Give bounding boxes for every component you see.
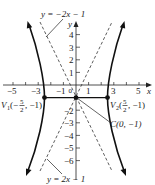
svg-text:5: 5	[20, 98, 24, 106]
svg-text:, −1): , −1)	[25, 100, 42, 110]
leader-line-bottom	[47, 159, 62, 174]
hyperbola-left-branch	[28, 25, 45, 172]
x-tick-label: 5	[136, 86, 141, 96]
asymptote-label-top: y = −2x − 1	[40, 9, 85, 19]
svg-text:, −1): , −1)	[128, 100, 145, 110]
svg-text:2: 2	[123, 106, 127, 114]
y-tick-label: −4	[64, 131, 74, 141]
x-axis-label: x	[146, 86, 151, 96]
x-tick-label: 3	[111, 86, 116, 96]
x-tick-label: −3	[31, 86, 41, 96]
svg-text:(: (	[119, 100, 122, 110]
y-axis-label: y	[67, 19, 72, 29]
right-branch-top-arrow-icon	[120, 21, 125, 28]
svg-text:(−: (−	[10, 100, 18, 110]
vertex-v1-label: V 1 (− 5 2 , −1)	[1, 98, 42, 114]
y-tick-label: −6	[64, 156, 74, 166]
y-tick-label: −2	[64, 106, 74, 116]
right-branch-bottom-arrow-icon	[121, 169, 127, 177]
y-tick-label: −5	[64, 143, 74, 153]
center-label: C(0, −1)	[110, 119, 142, 129]
y-tick-label: 1	[69, 68, 74, 78]
hyperbola-graph: −5 −3 −1 0 1 3 5 x 1 2 3 4 −2 −3 −4 −5 −…	[0, 0, 155, 185]
y-tick-label: −3	[64, 118, 74, 128]
center-point	[74, 95, 79, 100]
asymptote-label-bottom: y = 2x − 1	[46, 174, 85, 184]
y-axis-arrow-icon	[74, 21, 79, 27]
vertex-v2-label: V 2 ( 5 2 , −1)	[110, 98, 145, 114]
hyperbola-right-branch	[108, 25, 125, 172]
x-tick-label: 1	[86, 86, 91, 96]
left-branch-top-arrow-icon	[27, 21, 32, 28]
y-tick-label: 4	[69, 30, 74, 40]
vertex-v1-point	[42, 95, 47, 100]
y-tick-label: 2	[69, 55, 74, 65]
left-branch-bottom-arrow-icon	[26, 169, 32, 177]
leader-line-top	[46, 19, 63, 37]
svg-text:2: 2	[20, 106, 24, 114]
svg-text:5: 5	[123, 98, 127, 106]
leader-line-center	[77, 98, 111, 123]
y-tick-label: 3	[69, 43, 74, 53]
x-tick-label: −5	[7, 86, 17, 96]
x-tick-label: −1	[56, 86, 66, 96]
